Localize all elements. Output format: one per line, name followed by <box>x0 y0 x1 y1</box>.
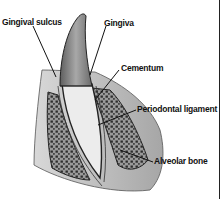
tooth-diagram: Gingival sulcus Gingiva Cementum Periodo… <box>0 0 223 199</box>
tooth-illustration <box>0 0 223 199</box>
label-periodontal-ligament: Periodontal ligament <box>137 105 217 114</box>
label-cementum: Cementum <box>121 64 163 73</box>
label-gingiva: Gingiva <box>104 19 134 28</box>
leader-gingival-sulcus <box>33 26 56 77</box>
tooth-crown <box>60 14 92 86</box>
leader-gingiva <box>90 26 106 75</box>
label-alveolar-bone: Alveolar bone <box>154 157 208 166</box>
frame-border-line <box>219 0 220 199</box>
label-gingival-sulcus: Gingival sulcus <box>2 18 62 27</box>
